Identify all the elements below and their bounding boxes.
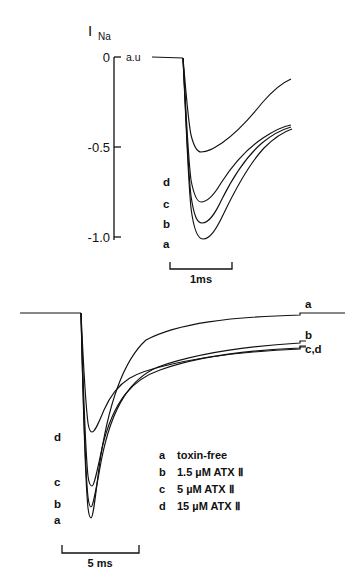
y-tick-label-minus-half: -0.5 [88,140,110,155]
top-trace-label-c: c [163,198,170,210]
y-axis-title: I [88,22,92,39]
legend-key-b: b [159,466,166,478]
y-tick-label-0: 0 [103,50,110,65]
figure-panel: I Na 0 -0.5 -1.0 a.u d c b a 1ms [0,0,362,581]
legend-text-c: 5 µM ATX Ⅱ [177,483,234,495]
top-scale-bar [170,262,232,269]
y-tick-label-minus-one: -1.0 [88,230,110,245]
trace-a-top [183,58,292,239]
top-trace-label-b: b [163,218,170,230]
bottom-left-label-b: b [54,498,61,510]
bottom-scale-bar-label: 5 ms [87,557,112,569]
legend-key-c: c [159,483,165,495]
y-axis-title-subscript: Na [98,31,111,42]
bottom-panel: a b c,d d c b a 5 ms [20,298,345,569]
bottom-right-label-cd: c,d [305,343,322,355]
legend-text-b: 1.5 µM ATX Ⅱ [177,466,243,478]
trace-b-top [183,58,291,223]
bottom-left-label-c: c [54,476,61,488]
y-axis-units-label: a.u [126,51,141,63]
legend-key-d: d [159,500,166,512]
legend-text-d: 15 µM ATX Ⅱ [177,500,240,512]
bottom-right-label-a: a [305,298,312,310]
bottom-scale-bar [62,545,139,553]
bottom-left-label-a: a [54,514,61,526]
top-trace-label-a: a [163,238,170,250]
top-panel: I Na 0 -0.5 -1.0 a.u d c b a 1ms [88,22,292,285]
top-scale-bar-label: 1ms [190,273,212,285]
legend-key-a: a [159,449,166,461]
bottom-left-label-d: d [54,431,61,443]
legend: a toxin-free b 1.5 µM ATX Ⅱ c 5 µM ATX Ⅱ… [159,449,243,512]
top-trace-label-d: d [163,176,170,188]
legend-text-a: toxin-free [177,449,227,461]
top-baseline [152,57,183,58]
bottom-right-label-b: b [305,329,312,341]
